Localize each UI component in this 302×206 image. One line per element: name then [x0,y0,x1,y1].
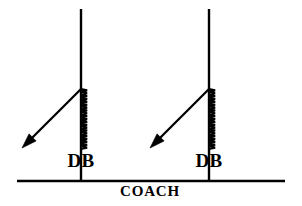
line-group [17,9,285,181]
arrow-shaft-right [159,89,209,139]
arrow-group [22,89,209,148]
zigzag-group [81,89,215,149]
play-diagram-svg [0,0,302,206]
db-label-left: DB [68,151,95,170]
play-diagram-canvas: DB DB COACH [0,0,302,206]
db-label-right: DB [196,151,223,170]
arrow-shaft-left [31,89,81,139]
coach-label: COACH [120,184,180,199]
